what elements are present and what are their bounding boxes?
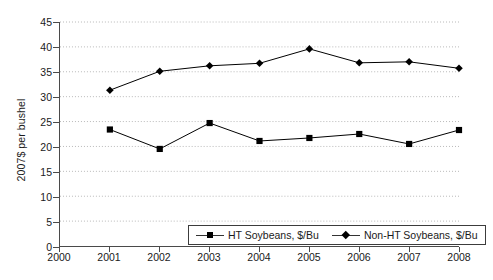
data-point-marker (405, 58, 413, 66)
y-tick-mark (53, 222, 59, 223)
legend-marker-square-icon (196, 230, 224, 240)
x-tick-label: 2008 (436, 252, 482, 263)
series-line-non-ht (110, 49, 459, 90)
x-tick-label: 2002 (136, 252, 182, 263)
data-point-marker (456, 127, 462, 133)
legend-label-non-ht: Non-HT Soybeans, $/Bu (364, 229, 478, 241)
y-tick-label: 15 (26, 167, 52, 178)
x-tick-label: 2006 (336, 252, 382, 263)
chart-container: 2007$ per bushel HT Soybeans, $/Bu Non-H… (0, 0, 493, 280)
data-point-marker (106, 86, 114, 94)
x-tick-label: 2007 (386, 252, 432, 263)
x-tick-mark (109, 247, 110, 252)
x-tick-label: 2000 (36, 252, 82, 263)
legend-label-ht: HT Soybeans, $/Bu (228, 229, 319, 241)
y-tick-mark (53, 172, 59, 173)
data-point-marker (107, 126, 113, 132)
x-tick-label: 2005 (286, 252, 332, 263)
x-tick-mark (259, 247, 260, 252)
data-point-marker (355, 59, 363, 67)
data-point-marker (356, 131, 362, 137)
data-point-marker (156, 67, 164, 75)
y-tick-mark (53, 47, 59, 48)
x-tick-mark (309, 247, 310, 252)
x-tick-mark (209, 247, 210, 252)
data-point-marker (306, 45, 314, 53)
legend-marker-diamond-icon (332, 230, 360, 240)
y-tick-label: 45 (26, 17, 52, 28)
x-tick-mark (359, 247, 360, 252)
data-point-marker (157, 146, 163, 152)
x-tick-mark (459, 247, 460, 252)
data-point-marker (256, 138, 262, 144)
chart-legend: HT Soybeans, $/Bu Non-HT Soybeans, $/Bu (188, 225, 486, 245)
data-point-marker (455, 65, 463, 73)
data-point-marker (306, 135, 312, 141)
plot-area (59, 22, 459, 247)
x-tick-label: 2001 (86, 252, 132, 263)
legend-entry-non-ht[interactable]: Non-HT Soybeans, $/Bu (332, 229, 478, 241)
y-tick-label: 5 (26, 217, 52, 228)
data-point-marker (256, 60, 264, 68)
x-tick-mark (409, 247, 410, 252)
data-point-marker (207, 120, 213, 126)
y-tick-label: 35 (26, 67, 52, 78)
y-tick-mark (53, 147, 59, 148)
x-tick-label: 2004 (236, 252, 282, 263)
x-tick-mark (159, 247, 160, 252)
y-tick-mark (53, 197, 59, 198)
data-point-marker (406, 141, 412, 147)
y-tick-label: 10 (26, 192, 52, 203)
y-tick-label: 25 (26, 117, 52, 128)
data-series-layer (60, 22, 459, 246)
y-tick-mark (53, 97, 59, 98)
y-tick-label: 20 (26, 142, 52, 153)
x-tick-label: 2003 (186, 252, 232, 263)
y-tick-mark (53, 122, 59, 123)
y-tick-label: 40 (26, 42, 52, 53)
y-tick-label: 30 (26, 92, 52, 103)
legend-entry-ht[interactable]: HT Soybeans, $/Bu (196, 229, 319, 241)
x-tick-mark (59, 247, 60, 252)
y-tick-mark (53, 72, 59, 73)
data-point-marker (206, 62, 214, 70)
y-tick-mark (53, 22, 59, 23)
